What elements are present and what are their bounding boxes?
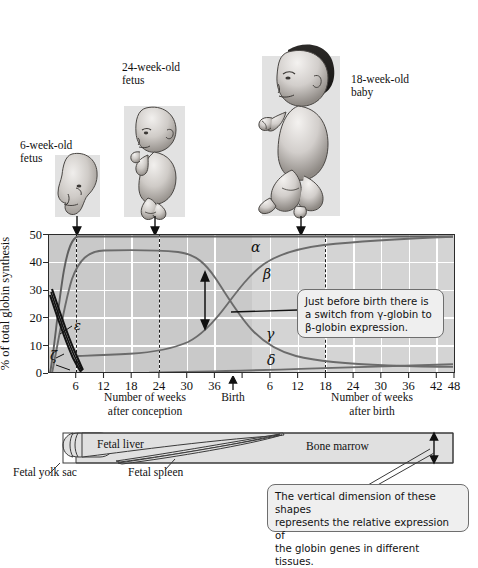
switch-callout-line2: a switch from γ-globin to (305, 308, 436, 321)
baby-18week-illustration (252, 36, 352, 222)
x-tick-post-6: 6 (259, 379, 281, 394)
x-axis-label-left-line1: Number of weeks (85, 391, 205, 405)
x-axis-label-left: Number of weeks after conception (85, 391, 205, 418)
x-axis-label-right: Number of weeks after birth (312, 391, 432, 418)
fetus-6week-caption-line2: fetus (20, 152, 100, 165)
tissue-callout-line3: the globin genes in different tissues. (275, 542, 461, 568)
y-tick-0: 0 (16, 366, 42, 381)
x-axis-label-right-line1: Number of weeks (312, 391, 432, 405)
tissue-callout-line1: The vertical dimension of these shapes (275, 490, 461, 516)
baby-18week-caption-line1: 18-week-old (351, 73, 441, 86)
y-tick-20: 20 (16, 311, 42, 326)
x-tick-pre-6: 6 (65, 379, 87, 394)
x-axis-label-right-line2: after birth (312, 405, 432, 419)
fetus-6week-caption: 6-week-old fetus (20, 139, 100, 165)
tissue-callout: The vertical dimension of these shapes r… (267, 484, 469, 532)
baby-18week-caption-line2: baby (351, 86, 441, 99)
baby-18week-caption: 18-week-old baby (351, 73, 441, 99)
fetus-6week-caption-line1: 6-week-old (20, 139, 100, 152)
illustration-pointer-arrows (0, 214, 478, 236)
y-tick-10: 10 (16, 339, 42, 354)
fetus-24week-caption: 24-week-old fetus (122, 61, 210, 87)
x-tick-post-48: 48 (443, 379, 465, 394)
switch-callout: Just before birth there is a switch from… (297, 289, 444, 338)
fetus-24week-illustration (118, 100, 192, 222)
x-tick-post-12: 12 (287, 379, 309, 394)
switch-callout-line1: Just before birth there is (305, 295, 436, 308)
x-axis-label-left-line2: after conception (85, 405, 205, 419)
fetus-24week-caption-line2: fetus (122, 74, 210, 87)
tissue-callout-line2: represents the relative expression of (275, 516, 461, 542)
y-tick-30: 30 (16, 283, 42, 298)
y-tick-50: 50 (16, 228, 42, 243)
birth-arrow (225, 376, 241, 390)
y-axis-label: % of total globin synthesis (0, 234, 14, 373)
switch-callout-line3: β-globin expression. (305, 321, 436, 334)
fetus-24week-caption-line1: 24-week-old (122, 61, 210, 74)
y-tick-40: 40 (16, 255, 42, 270)
birth-label: Birth (209, 391, 257, 405)
